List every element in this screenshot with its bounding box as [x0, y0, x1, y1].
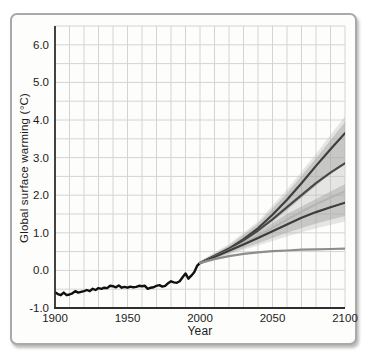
grid	[55, 26, 345, 308]
x-tick-label: 2100	[332, 312, 358, 324]
figure-panel: -1.00.01.02.03.04.05.06.0190019502000205…	[0, 0, 371, 359]
x-tick-label: 1950	[115, 312, 141, 324]
y-tick-label: 6.0	[33, 39, 49, 51]
x-tick-label: 1900	[42, 312, 68, 324]
y-axis-title: Global surface warming (°C)	[18, 93, 30, 243]
y-tick-label: 5.0	[33, 76, 49, 88]
y-tick-label: 1.0	[33, 227, 49, 239]
y-tick-label: 3.0	[33, 152, 49, 164]
x-axis-title: Year	[187, 324, 212, 338]
x-tick-label: 2050	[260, 312, 286, 324]
y-tick-label: 0.0	[33, 264, 49, 276]
y-tick-label: 2.0	[33, 189, 49, 201]
warming-projection-chart: -1.00.01.02.03.04.05.06.0190019502000205…	[0, 0, 371, 359]
x-tick-label: 2000	[187, 312, 213, 324]
y-tick-label: 4.0	[33, 114, 49, 126]
